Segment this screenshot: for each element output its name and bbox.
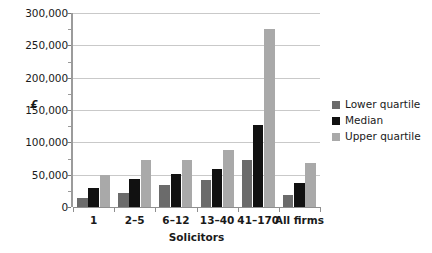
y-tick-label: 50,000: [0, 169, 68, 180]
bar: [201, 180, 212, 207]
bar-group: [159, 13, 192, 207]
bar: [182, 160, 193, 207]
y-tick-mark-minor: [68, 159, 71, 160]
x-tick-label: 1: [90, 214, 97, 226]
bar: [212, 169, 223, 207]
y-axis-tick-labels: 050,000100,000150,000200,000250,000300,0…: [0, 0, 68, 253]
bar: [129, 179, 140, 207]
x-tick-mark: [155, 207, 156, 212]
x-tick-label: 2–5: [125, 214, 145, 226]
y-tick-mark-minor: [68, 126, 71, 127]
bar: [264, 29, 275, 207]
y-tick-mark: [66, 78, 71, 79]
y-tick-label: 100,000: [0, 137, 68, 148]
bar-chart: £ 050,000100,000150,000200,000250,000300…: [0, 0, 432, 253]
bar: [305, 163, 316, 207]
plot-area: [73, 13, 320, 207]
y-tick-mark: [66, 207, 71, 208]
bar: [283, 195, 294, 207]
y-tick-mark: [66, 45, 71, 46]
bar: [223, 150, 234, 207]
bar-group: [201, 13, 234, 207]
chart-legend: Lower quartileMedianUpper quartile: [332, 97, 421, 145]
bar: [242, 160, 253, 207]
bar-group: [242, 13, 275, 207]
x-tick-mark: [73, 207, 74, 212]
y-tick-mark: [66, 110, 71, 111]
x-tick-label: All firms: [275, 214, 324, 226]
bars-layer: [73, 13, 320, 207]
x-tick-mark: [279, 207, 280, 212]
bar: [171, 174, 182, 207]
y-tick-mark-minor: [68, 191, 71, 192]
legend-item: Median: [332, 113, 421, 128]
x-tick-mark: [238, 207, 239, 212]
legend-swatch-icon: [332, 101, 340, 109]
x-tick-mark: [320, 207, 321, 212]
y-tick-label: 200,000: [0, 72, 68, 83]
y-tick-mark-minor: [68, 62, 71, 63]
bar: [294, 183, 305, 207]
legend-label: Lower quartile: [345, 99, 420, 110]
y-tick-label: 250,000: [0, 40, 68, 51]
x-axis-title: Solicitors: [73, 231, 320, 243]
bar: [88, 188, 99, 207]
legend-label: Upper quartile: [345, 131, 421, 142]
legend-swatch-icon: [332, 133, 340, 141]
legend-item: Upper quartile: [332, 129, 421, 144]
y-tick-label: 300,000: [0, 8, 68, 19]
y-tick-mark: [66, 175, 71, 176]
bar: [159, 185, 170, 207]
bar: [100, 175, 111, 207]
bar-group: [283, 13, 316, 207]
bar: [77, 198, 88, 207]
y-tick-mark: [66, 13, 71, 14]
x-tick-label: 41–170: [237, 214, 279, 226]
y-tick-mark-minor: [68, 29, 71, 30]
y-tick-mark: [66, 142, 71, 143]
bar: [118, 193, 129, 207]
bar: [253, 125, 264, 207]
bar-group: [118, 13, 151, 207]
x-tick-mark: [197, 207, 198, 212]
x-tick-mark: [114, 207, 115, 212]
legend-item: Lower quartile: [332, 97, 421, 112]
y-tick-mark-minor: [68, 94, 71, 95]
bar: [141, 160, 152, 207]
legend-swatch-icon: [332, 117, 340, 125]
legend-label: Median: [345, 115, 383, 126]
y-tick-label: 0: [0, 202, 68, 213]
x-tick-label: 13–40: [200, 214, 234, 226]
bar-group: [77, 13, 110, 207]
y-tick-label: 150,000: [0, 105, 68, 116]
x-tick-label: 6–12: [162, 214, 189, 226]
